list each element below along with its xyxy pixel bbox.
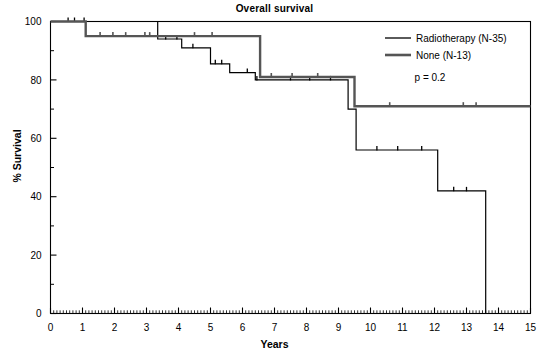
plot-area: 0204060801000123456789101112131415Radiot…	[0, 0, 549, 359]
y-tick-label: 40	[30, 191, 42, 202]
x-tick-label: 13	[461, 322, 473, 333]
plot-frame	[51, 22, 531, 314]
x-tick-label: 14	[493, 322, 505, 333]
legend-pvalue: p = 0.2	[415, 72, 446, 83]
x-tick-label: 7	[272, 322, 278, 333]
x-tick-label: 2	[112, 322, 118, 333]
x-tick-label: 4	[176, 322, 182, 333]
x-tick-label: 0	[48, 322, 54, 333]
y-tick-label: 0	[36, 308, 42, 319]
series-line-0	[51, 22, 486, 314]
y-tick-label: 60	[30, 133, 42, 144]
y-tick-label: 100	[25, 16, 42, 27]
x-tick-label: 8	[304, 322, 310, 333]
x-tick-label: 1	[80, 322, 86, 333]
legend-label-0: Radiotherapy (N-35)	[416, 33, 507, 44]
x-tick-label: 3	[144, 322, 150, 333]
x-tick-label: 5	[208, 322, 214, 333]
x-tick-label: 10	[365, 322, 377, 333]
y-tick-label: 80	[30, 75, 42, 86]
y-tick-label: 20	[30, 250, 42, 261]
x-tick-label: 9	[336, 322, 342, 333]
x-tick-label: 12	[429, 322, 441, 333]
x-tick-label: 11	[397, 322, 408, 333]
survival-chart-figure: Overall survival % Survival Years 020406…	[0, 0, 549, 359]
x-tick-label: 15	[525, 322, 537, 333]
legend-label-1: None (N-13)	[416, 50, 471, 61]
x-tick-label: 6	[240, 322, 246, 333]
